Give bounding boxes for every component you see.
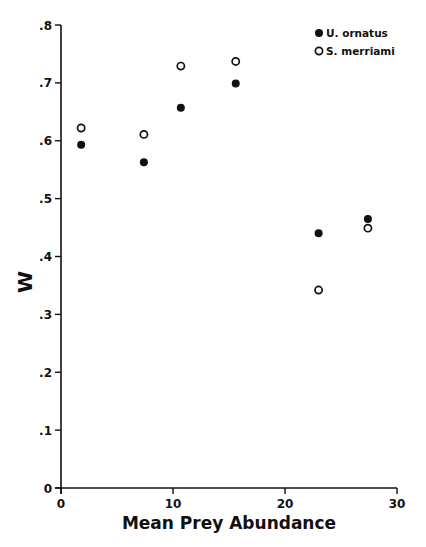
x-tick-label: 20: [277, 497, 294, 511]
s-merriami-point: [140, 131, 147, 138]
y-tick-label: .5: [39, 192, 52, 206]
y-tick-label: .7: [39, 76, 52, 90]
legend: U. ornatusS. merriami: [315, 27, 395, 57]
y-tick-label: .4: [39, 250, 52, 264]
legend-label: U. ornatus: [326, 27, 388, 39]
s-merriami-point: [364, 225, 371, 232]
y-tick-label: .1: [39, 424, 52, 438]
x-tick-label: 10: [165, 497, 182, 511]
u-ornatus-point: [315, 229, 323, 237]
legend-marker-icon: [315, 29, 323, 37]
x-tick-label: 0: [57, 497, 65, 511]
s-merriami-point: [78, 124, 85, 131]
legend-label: S. merriami: [326, 45, 395, 57]
axes: 0.1.2.3.4.5.6.7.80102030: [39, 19, 405, 512]
y-tick-label: .8: [39, 19, 52, 33]
u-ornatus-point: [140, 158, 148, 166]
data-points: [77, 58, 372, 294]
y-tick-label: .2: [39, 366, 52, 380]
u-ornatus-point: [232, 79, 240, 87]
x-axis-title: Mean Prey Abundance: [122, 513, 336, 533]
s-merriami-point: [232, 58, 239, 65]
legend-marker-icon: [315, 47, 322, 54]
u-ornatus-point: [364, 215, 372, 223]
y-tick-label: .6: [39, 134, 52, 148]
y-tick-label: .3: [39, 308, 52, 322]
y-tick-label: 0: [44, 482, 52, 496]
s-merriami-point: [315, 286, 322, 293]
u-ornatus-point: [77, 141, 85, 149]
x-tick-label: 30: [389, 497, 406, 511]
y-axis-title: W: [13, 271, 37, 293]
scatter-chart: 0.1.2.3.4.5.6.7.80102030 U. ornatusS. me…: [0, 0, 426, 547]
u-ornatus-point: [177, 104, 185, 112]
s-merriami-point: [177, 62, 184, 69]
